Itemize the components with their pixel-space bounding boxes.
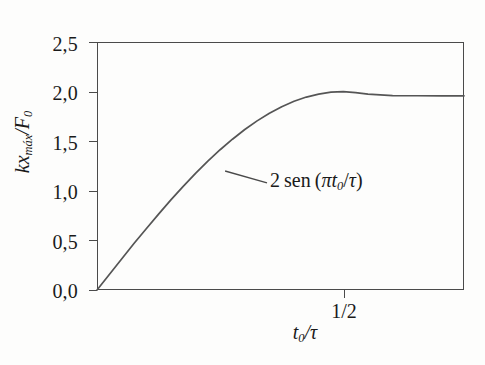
annotation-close-paren: ) [356, 169, 363, 191]
y-axis-title-x: x [11, 155, 33, 164]
x-tick-mark-half [344, 290, 345, 298]
y-axis-title-x-subscript: máx [21, 135, 35, 156]
y-tick-mark-5 [89, 42, 97, 43]
y-tick-label-4: 2,0 [24, 83, 78, 103]
y-tick-label-5: 2,5 [24, 34, 78, 54]
x-tick-label-half: 1/2 [314, 301, 374, 321]
y-tick-mark-2 [89, 191, 97, 192]
curve-annotation-label: 2 sen (πt0/τ) [270, 170, 363, 190]
y-tick-label-1: 0,5 [24, 232, 78, 252]
x-axis-title: t0/τ [245, 322, 365, 342]
y-tick-label-0: 0,0 [24, 281, 78, 301]
figure-canvas: 0,0 0,5 1,0 1,5 2,0 2,5 1/2 kxmáx/F0 t0/… [0, 0, 485, 365]
y-tick-mark-1 [89, 240, 97, 241]
y-axis-title: kxmáx/F0 [12, 82, 32, 202]
y-axis-title-k: k [11, 164, 33, 173]
plot-frame [97, 42, 464, 290]
y-tick-mark-0 [89, 290, 97, 291]
y-tick-label-2: 1,0 [24, 182, 78, 202]
y-axis-title-F: F [11, 117, 33, 129]
x-axis-title-t-subscript: 0 [298, 331, 304, 345]
y-axis-title-F-subscript: 0 [21, 111, 35, 117]
y-axis-title-slash: / [11, 129, 33, 135]
x-axis-title-tau: τ [310, 321, 317, 343]
y-tick-mark-4 [89, 92, 97, 93]
annotation-coefficient: 2 [270, 169, 280, 191]
annotation-t-subscript: 0 [337, 179, 343, 193]
annotation-tau-symbol: τ [349, 169, 356, 191]
y-tick-mark-3 [89, 141, 97, 142]
annotation-pi-symbol: π [321, 169, 331, 191]
annotation-function-name: sen [284, 169, 311, 191]
